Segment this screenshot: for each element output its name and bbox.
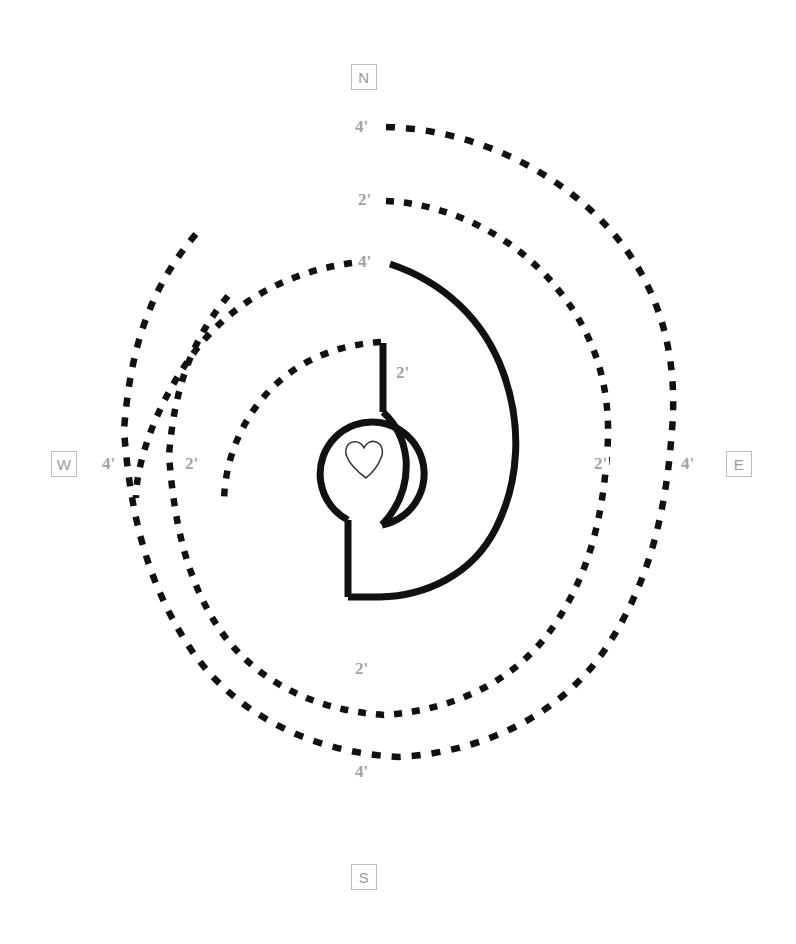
ring-label-south-outer: 4': [353, 763, 370, 780]
spiral-garden-svg: [0, 0, 796, 944]
ring-label-west-outer: 4': [100, 455, 117, 472]
compass-east: E: [726, 451, 752, 477]
ring-label-north-outer: 4': [353, 118, 370, 135]
heart-icon: [346, 441, 383, 478]
middle-ring-2ft-dashed: [169, 201, 608, 715]
diagram-canvas: N S W E 4' 2' 4' 2' 4' 2' 2' 4' 2' 4': [0, 0, 796, 944]
outer-ring-4ft-dashed: [124, 127, 673, 757]
compass-west: W: [51, 451, 77, 477]
ring-label-south-inner: 2': [353, 660, 370, 677]
compass-south: S: [351, 864, 377, 890]
ring-label-northwest-outer: 4': [356, 253, 373, 270]
ring-label-east-outer: 4': [679, 455, 696, 472]
ring-label-east-inner: 2': [592, 455, 609, 472]
ring-label-center-stem: 2': [394, 364, 411, 381]
ring-label-west-inner: 2': [183, 455, 200, 472]
ring-label-north-inner: 2': [356, 191, 373, 208]
compass-north: N: [351, 64, 377, 90]
solid-spiral-outer-arm: [348, 264, 516, 597]
